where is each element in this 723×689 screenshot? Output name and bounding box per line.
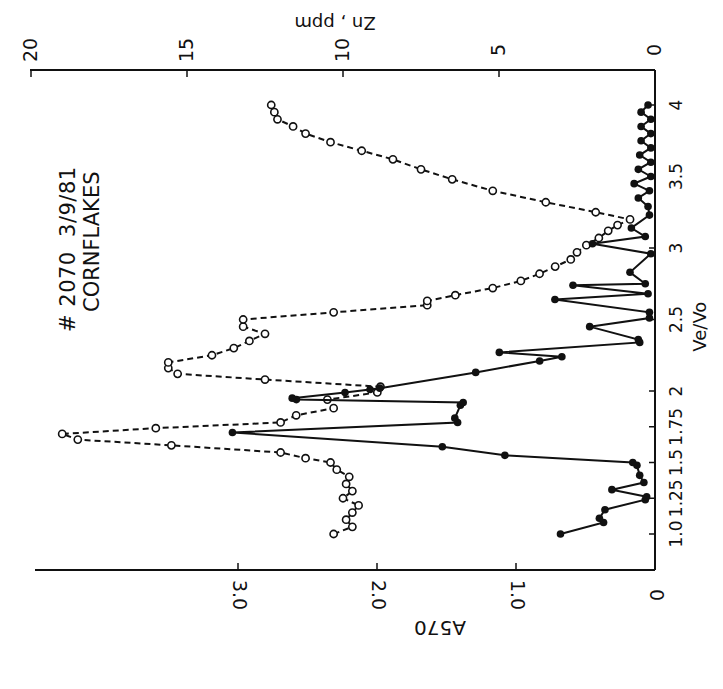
a570-point — [628, 224, 636, 232]
a570-point — [288, 394, 296, 402]
x-tick-label: 4 — [666, 100, 686, 111]
chart-figure: 1.01.251.51.7522.533.54Ve/Vo01.02.03.0A5… — [0, 0, 723, 689]
a570-point — [341, 389, 349, 397]
zn-point — [261, 330, 268, 337]
zn-point — [552, 263, 559, 270]
zn-point — [567, 256, 574, 263]
zn-point — [349, 509, 356, 516]
zn-point — [174, 370, 181, 377]
zn-point — [424, 297, 431, 304]
zn-point — [271, 109, 278, 116]
a570-point — [641, 233, 649, 241]
a570-point — [596, 514, 604, 522]
x-tick-label: 3 — [666, 243, 686, 254]
a570-point — [496, 349, 504, 357]
zn-tick-label: 5 — [487, 44, 509, 56]
a570-series-solid — [229, 101, 655, 538]
annotation-line-2: CORNFLAKES — [80, 102, 104, 332]
zn-point — [346, 473, 353, 480]
a570-point — [626, 269, 634, 277]
zn-point — [330, 530, 337, 537]
a570-tick-label: 2.0 — [368, 580, 390, 610]
zn-point — [74, 436, 81, 443]
a570-point — [636, 151, 644, 159]
a570-point — [589, 240, 597, 248]
a570-point — [637, 123, 645, 131]
zn-point — [152, 425, 159, 432]
a570-point — [635, 166, 643, 174]
a570-point — [647, 158, 655, 166]
zn-point — [349, 488, 356, 495]
a570-point — [635, 336, 643, 344]
a570-point — [569, 281, 577, 289]
x-tick-label: 3.5 — [666, 163, 686, 190]
zn-point — [343, 516, 350, 523]
x-tick-label: 2 — [666, 386, 686, 397]
a570-point — [644, 101, 652, 109]
a570-point — [647, 116, 655, 124]
zn-point — [592, 209, 599, 216]
zn-point — [274, 116, 281, 123]
zn-point — [417, 166, 424, 173]
zn-point — [489, 284, 496, 291]
zn-point — [327, 459, 334, 466]
x-tick-label: 1.5 — [666, 449, 686, 476]
zn-tick-label: 0 — [643, 44, 665, 56]
zn-tick-label: 20 — [19, 38, 41, 62]
zn-point — [230, 345, 237, 352]
zn-point — [293, 412, 300, 419]
a570-point — [647, 173, 655, 181]
a570-point — [366, 386, 374, 394]
a570-point — [644, 203, 652, 211]
a570-point — [439, 443, 447, 451]
zn-point — [389, 156, 396, 163]
zn-point — [339, 495, 346, 502]
zn-tick-label: 15 — [175, 38, 197, 62]
annotation-block: # 2070 3/9/81 CORNFLAKES — [56, 102, 104, 332]
a570-line — [232, 105, 650, 534]
a570-point — [637, 137, 645, 145]
zn-point — [240, 316, 247, 323]
zn-point — [261, 376, 268, 383]
a570-point — [557, 530, 565, 538]
a570-point — [229, 429, 237, 437]
a570-point — [536, 357, 544, 365]
a570-point — [635, 194, 643, 202]
a570-point — [646, 309, 654, 317]
zn-point — [452, 292, 459, 299]
a570-point — [644, 290, 652, 298]
zn-point — [517, 277, 524, 284]
zn-point — [614, 222, 621, 229]
labels-layer: 1.01.251.51.7522.533.54Ve/Vo01.02.03.0A5… — [19, 13, 711, 640]
zn-point — [542, 199, 549, 206]
zn-point — [355, 502, 362, 509]
zn-point — [168, 442, 175, 449]
rotated-chart-svg: 1.01.251.51.7522.533.54Ve/Vo01.02.03.0A5… — [0, 0, 723, 689]
x-tick-label: 2.5 — [666, 306, 686, 333]
a570-point — [501, 452, 509, 460]
zn-point — [165, 359, 172, 366]
zn-point — [302, 130, 309, 137]
x-tick-label: 1.25 — [666, 479, 686, 517]
zn-point — [289, 123, 296, 130]
a570-tick-label: 3.0 — [229, 580, 251, 610]
zn-point — [330, 405, 337, 412]
annotation-line-1: # 2070 3/9/81 — [56, 102, 80, 332]
zn-point — [302, 455, 309, 462]
zn-tick-label: 10 — [331, 38, 353, 62]
a570-point — [646, 187, 654, 195]
a570-point — [558, 353, 566, 361]
a570-point — [459, 399, 467, 407]
zn-point — [358, 147, 365, 154]
a570-point — [376, 384, 384, 392]
a570-point — [472, 369, 480, 377]
zn-series-dashed — [59, 101, 634, 537]
zn-point — [595, 234, 602, 241]
x-tick-label: 1.0 — [666, 520, 686, 547]
zn-point — [240, 323, 247, 330]
a570-tick-label: 1.0 — [507, 580, 529, 610]
zn-point — [208, 352, 215, 359]
zn-line — [62, 105, 630, 534]
a570-point — [601, 506, 609, 514]
zn-point — [246, 337, 253, 344]
